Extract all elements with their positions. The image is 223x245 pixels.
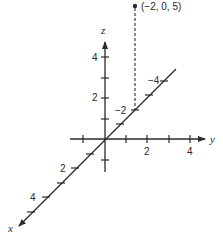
- x-tick-label-neg4: −4: [148, 75, 160, 86]
- z-tick-label-4: 4: [92, 52, 98, 63]
- z-axis: [101, 42, 109, 172]
- point-marker: [133, 4, 137, 8]
- z-axis-label: z: [100, 24, 106, 36]
- y-axis-label: y: [209, 133, 215, 145]
- x-tick-label-neg2: −2: [115, 105, 127, 116]
- x-axis-label: x: [7, 222, 13, 234]
- y-axis: [70, 135, 205, 143]
- coordinate-diagram: z 2 4 y 2 4 x 2 4 −2 −4 (−2, 0, 5): [0, 0, 223, 245]
- point-label: (−2, 0, 5): [141, 1, 181, 12]
- z-tick-label-2: 2: [92, 92, 98, 103]
- x-tick-label-2: 2: [60, 163, 66, 174]
- x-tick-label-4: 4: [30, 192, 36, 203]
- y-tick-label-4: 4: [187, 146, 193, 157]
- y-tick-label-2: 2: [144, 146, 150, 157]
